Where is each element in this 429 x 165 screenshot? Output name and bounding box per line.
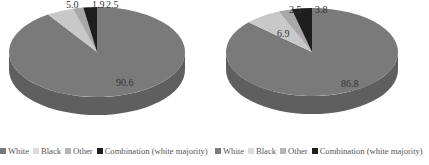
legend-item-black: Black	[33, 146, 61, 156]
swatch-other-icon	[280, 148, 286, 154]
swatch-white-icon	[215, 148, 221, 154]
swatch-black-icon	[248, 148, 254, 154]
legend-label: Black	[41, 146, 61, 156]
legend-label: White	[8, 146, 29, 156]
legend-item-white: White	[0, 146, 29, 156]
data-label: 2.5	[289, 4, 302, 15]
swatch-combination-icon	[97, 148, 103, 154]
legend-item-combination: Combination (white majority)	[312, 146, 423, 156]
data-label: 86.8	[341, 78, 359, 89]
legend-item-white: White	[215, 146, 244, 156]
data-label: 3.8	[315, 4, 328, 15]
legend-item-combination: Combination (white majority)	[97, 146, 208, 156]
legend-label: Combination (white majority)	[320, 146, 423, 156]
legend-item-other: Other	[65, 146, 93, 156]
legend-label: Combination (white majority)	[105, 146, 208, 156]
swatch-combination-icon	[312, 148, 318, 154]
data-label: 2.5	[106, 0, 119, 10]
data-label: 90.6	[116, 77, 134, 88]
legend-left: White Black Other Combination (white maj…	[0, 146, 214, 156]
pie-chart-left: 90.65.01.92.5 White Black Other Combinat…	[0, 0, 214, 165]
legend-right: White Black Other Combination (white maj…	[215, 146, 429, 156]
data-label: 1.9	[92, 0, 105, 10]
swatch-white-icon	[0, 148, 6, 154]
data-label: 6.9	[277, 28, 290, 39]
swatch-other-icon	[65, 148, 71, 154]
legend-label: Black	[256, 146, 276, 156]
legend-item-other: Other	[280, 146, 308, 156]
legend-label: Other	[288, 146, 308, 156]
pie-left-plot: 90.65.01.92.5	[0, 0, 214, 140]
pie-right-plot: 86.86.92.53.8	[215, 0, 429, 140]
pie-chart-right: 86.86.92.53.8 White Black Other Combinat…	[215, 0, 429, 165]
data-label: 5.0	[66, 0, 79, 10]
legend-label: Other	[73, 146, 93, 156]
swatch-black-icon	[33, 148, 39, 154]
legend-label: White	[223, 146, 244, 156]
legend-item-black: Black	[248, 146, 276, 156]
